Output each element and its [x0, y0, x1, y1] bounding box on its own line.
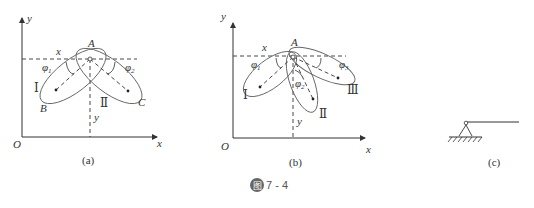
figure-caption: 图 7 - 4 — [250, 178, 288, 192]
x-axis-label: x — [365, 143, 371, 155]
joint-A — [291, 55, 295, 59]
pin-support-triangle — [459, 125, 472, 136]
center-II-dot — [312, 98, 315, 101]
body-I-label: Ⅰ — [243, 88, 248, 102]
body-I-label: Ⅰ — [34, 81, 39, 95]
phi3-label: φ3 — [339, 58, 349, 72]
origin-label: O — [221, 140, 229, 152]
figure-badge-icon: 图 — [250, 178, 264, 192]
y-axis-label: y — [26, 12, 32, 24]
body-II-ellipse — [280, 48, 324, 116]
joint-A — [88, 57, 92, 61]
panel-b: y x O A x y φ1 φ2 φ3 Ⅰ Ⅱ Ⅲ (b) — [220, 10, 371, 169]
body-III-label: Ⅲ — [347, 83, 359, 97]
coord-y-label: y — [296, 115, 302, 127]
center-I-dot — [259, 86, 262, 89]
pin-joint — [464, 121, 468, 125]
phi1-label: φ1 — [42, 61, 52, 75]
point-B-label: B — [40, 102, 47, 114]
panel-c: (c) — [448, 121, 519, 169]
point-A-label: A — [290, 36, 298, 48]
figure-number: 7 - 4 — [266, 179, 288, 191]
body-II-label: Ⅱ — [100, 96, 108, 110]
coord-x-label: x — [55, 45, 61, 57]
angle-phi1-arc — [276, 58, 281, 68]
phi2-label: φ2 — [125, 61, 135, 75]
x-axis-label: x — [156, 137, 162, 149]
figure-canvas: y x O A x y φ1 φ2 Ⅰ Ⅱ B C (a) y x O — [0, 0, 534, 208]
panel-a: y x O A x y φ1 φ2 Ⅰ Ⅱ B C (a) — [13, 12, 162, 167]
body-II-label: Ⅱ — [319, 107, 327, 121]
origin-label: O — [13, 138, 21, 150]
ground-hatch — [448, 137, 482, 142]
center-C-dot — [127, 90, 130, 93]
angle-phi2-arc — [107, 62, 115, 74]
point-C-label: C — [138, 96, 146, 108]
phi1-label: φ1 — [251, 58, 261, 72]
angle-phi3-arc — [316, 58, 321, 68]
panel-a-caption: (a) — [82, 154, 95, 167]
point-A-label: A — [87, 37, 95, 49]
center-B-dot — [55, 89, 58, 92]
y-axis-label: y — [220, 10, 226, 22]
panel-c-caption: (c) — [488, 156, 501, 169]
coord-x-label: x — [261, 41, 267, 53]
panel-b-caption: (b) — [289, 156, 302, 169]
center-III-dot — [337, 77, 340, 80]
link-A-to-III — [293, 57, 338, 78]
coord-y-label: y — [93, 111, 99, 123]
angle-phi1-arc — [66, 62, 74, 74]
